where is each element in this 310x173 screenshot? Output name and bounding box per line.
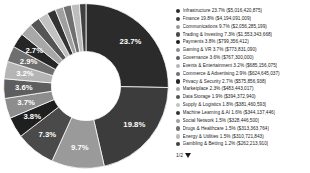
slice-percentage-label: 2.7%	[25, 46, 43, 55]
legend-item[interactable]: Marketplace 2.3% ($483,443,017)	[176, 85, 308, 93]
slice-percentage-label: 19.8%	[123, 120, 145, 129]
legend-item-label: Finance 19.8% ($4,194,091,009)	[183, 15, 252, 23]
donut-chart[interactable]: 23.7%19.8%9.7%7.3%3.8%3.7%3.6%3.2%2.9%2.…	[2, 2, 170, 170]
legend-item-label: Privacy & Security 2.7% ($575,856,938)	[183, 78, 267, 86]
legend-item-label: Machine Learning & AI 1.6% ($344,137,446…	[183, 109, 276, 117]
legend-color-swatch	[176, 126, 180, 130]
legend-item[interactable]: Trading & Investing 7.3% ($1,553,343,668…	[176, 31, 308, 39]
legend-color-swatch	[176, 134, 180, 138]
legend-item[interactable]: Payments 3.8% ($799,356,412)	[176, 38, 308, 46]
legend-item-label: Drugs & Healthcare 1.5% ($313,363,764)	[183, 125, 269, 133]
legend-item[interactable]: Drugs & Healthcare 1.5% ($313,363,764)	[176, 125, 308, 133]
chevron-down-icon[interactable]	[185, 153, 191, 158]
slice-percentage-label: 9.7%	[71, 143, 89, 152]
slice-percentage-label: 2.9%	[20, 57, 38, 66]
legend: Infrastructure 23.7% ($5,016,420,875)Fin…	[172, 0, 310, 173]
legend-color-swatch	[176, 111, 180, 115]
legend-item[interactable]: Finance 19.8% ($4,194,091,009)	[176, 15, 308, 23]
legend-list: Infrastructure 23.7% ($5,016,420,875)Fin…	[176, 7, 308, 148]
legend-color-swatch	[176, 95, 180, 99]
legend-item[interactable]: Machine Learning & AI 1.6% ($344,137,446…	[176, 109, 308, 117]
legend-item-label: Energy & Utilities 1.5% ($310,721,843)	[183, 133, 264, 141]
legend-item[interactable]: Social Network 1.5% ($328,446,500)	[176, 117, 308, 125]
legend-color-swatch	[176, 25, 180, 29]
legend-item-label: Trading & Investing 7.3% ($1,553,343,668…	[183, 31, 273, 39]
legend-item[interactable]: Gambling & Betting 1.2% ($262,213,910)	[176, 140, 308, 148]
legend-item-label: Gaming & VR 3.7% ($773,831,090)	[183, 46, 257, 54]
slice-percentage-label: 3.7%	[17, 98, 35, 107]
legend-item[interactable]: Infrastructure 23.7% ($5,016,420,875)	[176, 7, 308, 15]
legend-item[interactable]: Privacy & Security 2.7% ($575,856,938)	[176, 78, 308, 86]
legend-color-swatch	[176, 119, 180, 123]
legend-color-swatch	[176, 32, 180, 36]
legend-item[interactable]: Governance 3.6% ($767,300,000)	[176, 54, 308, 62]
slice-percentage-label: 3.6%	[15, 83, 33, 92]
pager-label: 1/2	[176, 152, 183, 158]
legend-item[interactable]: Gaming & VR 3.7% ($773,831,090)	[176, 46, 308, 54]
legend-color-swatch	[176, 17, 180, 21]
legend-color-swatch	[176, 56, 180, 60]
legend-item-label: Supply & Logistics 1.8% ($381,460,593)	[183, 101, 267, 109]
legend-color-swatch	[176, 79, 180, 83]
legend-pager[interactable]: 1/2	[176, 152, 191, 158]
legend-color-swatch	[176, 9, 180, 13]
legend-item-label: Communications 9.7% ($2,056,285,199)	[183, 23, 267, 31]
legend-item-label: Infrastructure 23.7% ($5,016,420,875)	[183, 7, 263, 15]
legend-item[interactable]: Data Storage 1.9% ($394,372,940)	[176, 93, 308, 101]
legend-item-label: Gambling & Betting 1.2% ($262,213,910)	[183, 140, 269, 148]
slice-percentage-label: 3.8%	[23, 112, 41, 121]
slice-percentage-label: 7.3%	[39, 130, 57, 139]
chart-area: 23.7%19.8%9.7%7.3%3.8%3.7%3.6%3.2%2.9%2.…	[0, 0, 172, 173]
slice-percentage-label: 23.7%	[119, 37, 141, 46]
legend-item-label: Payments 3.8% ($799,356,412)	[183, 38, 249, 46]
donut-chart-widget: 23.7%19.8%9.7%7.3%3.8%3.7%3.6%3.2%2.9%2.…	[0, 0, 310, 173]
legend-item-label: Commerce & Advertising 2.9% ($624,645,03…	[183, 70, 280, 78]
legend-item[interactable]: Energy & Utilities 1.5% ($310,721,843)	[176, 133, 308, 141]
legend-item-label: Governance 3.6% ($767,300,000)	[183, 54, 254, 62]
slice-percentage-label: 3.2%	[16, 69, 34, 78]
legend-item[interactable]: Events & Entertainment 3.2% ($685,156,07…	[176, 62, 308, 70]
legend-color-swatch	[176, 87, 180, 91]
legend-color-swatch	[176, 40, 180, 44]
legend-item[interactable]: Commerce & Advertising 2.9% ($624,645,03…	[176, 70, 308, 78]
legend-item-label: Social Network 1.5% ($328,446,500)	[183, 117, 260, 125]
legend-item-label: Data Storage 1.9% ($394,372,940)	[183, 93, 256, 101]
legend-color-swatch	[176, 103, 180, 107]
legend-item[interactable]: Supply & Logistics 1.8% ($381,460,593)	[176, 101, 308, 109]
legend-item-label: Events & Entertainment 3.2% ($685,156,07…	[183, 62, 278, 70]
legend-color-swatch	[176, 64, 180, 68]
legend-color-swatch	[176, 72, 180, 76]
legend-item[interactable]: Communications 9.7% ($2,056,285,199)	[176, 23, 308, 31]
legend-item-label: Marketplace 2.3% ($483,443,017)	[183, 85, 254, 93]
legend-color-swatch	[176, 48, 180, 52]
legend-color-swatch	[176, 142, 180, 146]
